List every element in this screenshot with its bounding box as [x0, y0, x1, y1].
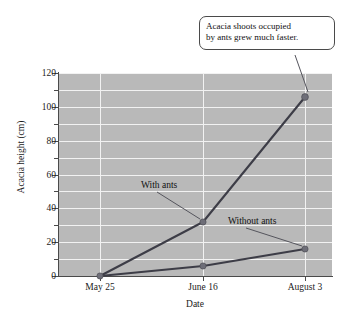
x-axis-tick-label: June 16 — [158, 283, 248, 293]
x-axis-tick — [203, 276, 204, 281]
gridline-vertical — [100, 73, 101, 276]
y-axis-tick-label: 120 — [16, 69, 56, 79]
x-axis-tick — [100, 276, 101, 281]
series-label-without-ants: Without ants — [228, 216, 276, 226]
plot-area — [58, 73, 332, 276]
gridline-vertical — [203, 73, 204, 276]
callout-box: Acacia shoots occupied by ants grew much… — [199, 16, 335, 50]
x-axis-tick — [305, 276, 306, 281]
y-axis-tick-minor — [54, 90, 58, 91]
x-axis-title: Date — [58, 299, 332, 309]
y-axis-tick-label: 20 — [16, 238, 56, 248]
callout-line-1: Acacia shoots occupied — [206, 21, 328, 32]
y-axis-line — [58, 72, 59, 277]
y-axis-tick-minor — [54, 259, 58, 260]
callout-line-2: by ants grew much faster. — [206, 32, 328, 43]
series-label-with-ants: With ants — [141, 180, 177, 190]
y-axis-tick-minor — [54, 191, 58, 192]
gridline-vertical — [305, 73, 306, 276]
y-axis-title: Acacia height (cm) — [16, 92, 26, 222]
x-axis-tick-label: August 3 — [260, 283, 350, 293]
y-axis-tick-minor — [54, 225, 58, 226]
y-axis-tick-label: 0 — [16, 272, 56, 282]
x-axis-tick-label: May 25 — [55, 283, 145, 293]
x-axis-line — [57, 276, 333, 277]
y-axis-tick-minor — [54, 158, 58, 159]
chart-figure: 120 100 80 60 40 20 0 May 25 June 16 Aug… — [0, 0, 352, 325]
y-axis-tick-minor — [54, 124, 58, 125]
